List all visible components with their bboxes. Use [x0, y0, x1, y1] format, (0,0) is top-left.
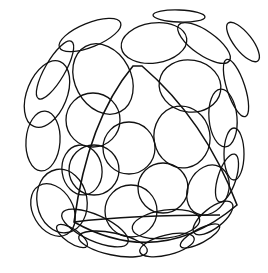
circle-patch	[69, 145, 119, 195]
circle-patches	[15, 9, 265, 262]
sphere-figure	[0, 0, 268, 273]
circle-patch	[137, 229, 196, 262]
sphere-illustration	[0, 0, 268, 273]
circle-patch	[153, 9, 205, 23]
circle-patch	[57, 201, 133, 254]
circle-patch	[24, 110, 62, 172]
circle-patch	[207, 88, 240, 148]
circle-patch	[188, 195, 238, 240]
circle-patch	[172, 15, 237, 70]
circle-patch	[105, 185, 157, 237]
circle-patch	[15, 54, 78, 134]
circle-patch	[149, 102, 215, 173]
circle-patch	[55, 12, 125, 59]
circle-patch	[103, 122, 155, 174]
circle-patch	[138, 163, 188, 213]
circle-patch	[130, 205, 201, 242]
